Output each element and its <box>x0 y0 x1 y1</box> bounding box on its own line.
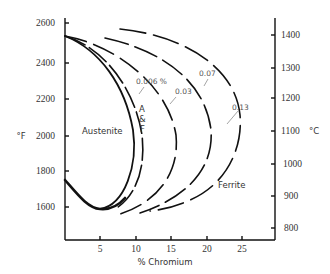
y-tick-right: 1000 <box>283 159 302 169</box>
label-003: 0.03 <box>175 87 192 96</box>
y-tick-right: 1200 <box>281 93 300 103</box>
left-tick-labels: 2600 2400 2200 2000 1800 1600 <box>36 18 55 212</box>
x-tick-labels: 5 10 15 20 25 <box>98 244 247 254</box>
x-tick: 10 <box>131 244 141 254</box>
region-af-f: F <box>140 124 145 134</box>
y-tick: 2000 <box>36 131 55 141</box>
region-af-amp: & <box>139 114 146 124</box>
y-tick: 1800 <box>36 166 55 176</box>
y-tick: 1600 <box>36 202 55 212</box>
y-tick-right: 1400 <box>281 30 300 40</box>
x-tick: 15 <box>166 244 176 254</box>
y-tick: 2400 <box>36 58 55 68</box>
curves <box>65 29 240 214</box>
y-tick-right: 800 <box>284 223 299 233</box>
y-tick-right: 1300 <box>281 63 300 73</box>
y-axis-title-right: °C <box>309 126 319 136</box>
y-axis-title-left: °F <box>16 131 25 141</box>
x-tick: 20 <box>202 244 212 254</box>
label-0006: 0.006 % <box>136 77 167 86</box>
x-tick: 5 <box>98 244 103 254</box>
x-tick: 25 <box>237 244 247 254</box>
right-tick-labels: 1400 1300 1200 1100 1000 900 800 <box>281 30 302 233</box>
x-axis-title: % Chromium <box>138 257 193 267</box>
label-007: 0.07 <box>199 69 216 78</box>
y-tick: 2200 <box>36 94 55 104</box>
label-013: 0.13 <box>232 103 249 112</box>
region-austenite: Austenite <box>82 126 123 136</box>
y-tick: 2600 <box>36 18 55 28</box>
y-tick-right: 1100 <box>281 126 300 136</box>
curve-solid-loop <box>65 36 134 209</box>
curve-lower-loop <box>65 180 125 209</box>
phase-diagram: 5 10 15 20 25 2600 2400 2200 2000 1800 1… <box>0 0 330 274</box>
region-ferrite: Ferrite <box>218 180 245 190</box>
y-tick-right: 900 <box>284 191 299 201</box>
region-af-a: A <box>139 104 145 114</box>
curve-003 <box>65 36 176 214</box>
